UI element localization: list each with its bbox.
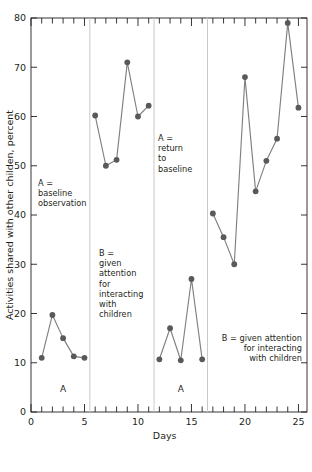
anno-b-given-attention-line-2: given	[99, 258, 122, 268]
y-tick-label-50: 50	[14, 160, 26, 171]
x-tick-label-15: 15	[185, 416, 197, 427]
anno-a-baseline-line-3: observation	[38, 198, 86, 208]
phase-letter-3-a: A	[178, 384, 185, 394]
series-line-phase-3	[159, 279, 202, 360]
data-point-day-13	[167, 325, 173, 331]
line-chart: 010203040506070800510152025DaysActivitie…	[0, 0, 312, 472]
anno-a-return-line-3: to	[158, 153, 166, 163]
x-tick-label-0: 0	[28, 416, 34, 427]
y-tick-label-60: 60	[14, 111, 26, 122]
data-point-day-12	[156, 356, 162, 362]
y-tick-label-10: 10	[14, 357, 26, 368]
data-point-day-1	[39, 355, 45, 361]
y-tick-label-80: 80	[14, 12, 26, 23]
data-point-day-9	[124, 59, 130, 65]
data-point-day-2	[50, 312, 56, 318]
y-tick-label-40: 40	[14, 209, 26, 220]
data-point-day-11	[146, 103, 152, 109]
data-point-day-5	[82, 355, 88, 361]
anno-b-given-attention-line-5: interacting	[99, 289, 143, 299]
data-point-day-23	[274, 136, 280, 142]
data-point-day-20	[242, 74, 248, 80]
x-tick-label-25: 25	[292, 416, 304, 427]
anno-a-return-line-2: return	[158, 143, 183, 153]
anno-b-given-attention-line-7: children	[99, 309, 132, 319]
anno-a-return-line-1: A =	[158, 133, 173, 143]
x-axis-title: Days	[153, 430, 177, 441]
anno-b-given-attention-2: B = given attentionfor interactingwith c…	[222, 333, 302, 363]
x-tick-label-20: 20	[239, 416, 251, 427]
data-point-day-4	[71, 353, 77, 359]
y-tick-label-20: 20	[14, 308, 26, 319]
data-point-day-7	[103, 163, 109, 169]
anno-a-baseline: A =baselineobservation	[38, 178, 86, 208]
y-tick-label-0: 0	[20, 406, 26, 417]
anno-b-given-attention-2-line-2: for interacting	[244, 343, 302, 353]
anno-b-given-attention-2-line-1: B = given attention	[222, 333, 302, 343]
data-point-day-6	[92, 113, 98, 119]
y-axis-title: Activities shared with other childen, pe…	[4, 110, 15, 320]
data-point-day-18	[221, 234, 227, 240]
data-point-day-14	[178, 357, 184, 363]
anno-b-given-attention-line-6: with	[99, 299, 116, 309]
data-point-day-24	[285, 20, 291, 26]
y-tick-label-70: 70	[14, 62, 26, 73]
data-point-day-17	[210, 211, 216, 217]
data-point-day-19	[231, 261, 237, 267]
anno-a-baseline-line-1: A =	[38, 178, 53, 188]
data-point-day-21	[253, 188, 259, 194]
anno-b-given-attention-2-line-3: with children	[249, 353, 302, 363]
data-point-day-3	[60, 335, 66, 341]
anno-b-given-attention-line-1: B =	[99, 248, 114, 258]
x-tick-label-10: 10	[132, 416, 144, 427]
y-tick-label-30: 30	[14, 259, 26, 270]
anno-b-given-attention-line-3: attention	[99, 268, 136, 278]
chart-container: 010203040506070800510152025DaysActivitie…	[0, 0, 312, 472]
anno-b-given-attention: B =givenattentionforinteractingwithchild…	[99, 248, 143, 319]
phase-letter-1-a: A	[60, 384, 67, 394]
series-line-phase-2	[95, 62, 148, 165]
series-line-phase-4	[213, 23, 299, 264]
anno-a-baseline-line-2: baseline	[38, 188, 72, 198]
anno-a-return-line-4: baseline	[158, 164, 192, 174]
data-point-day-16	[199, 356, 205, 362]
data-point-day-25	[296, 105, 302, 111]
data-point-day-8	[114, 157, 120, 163]
data-point-day-15	[189, 276, 195, 282]
x-tick-label-5: 5	[81, 416, 87, 427]
data-point-day-10	[135, 114, 141, 120]
anno-a-return: A =returntobaseline	[158, 133, 192, 174]
anno-b-given-attention-line-4: for	[99, 279, 111, 289]
data-point-day-22	[263, 158, 269, 164]
